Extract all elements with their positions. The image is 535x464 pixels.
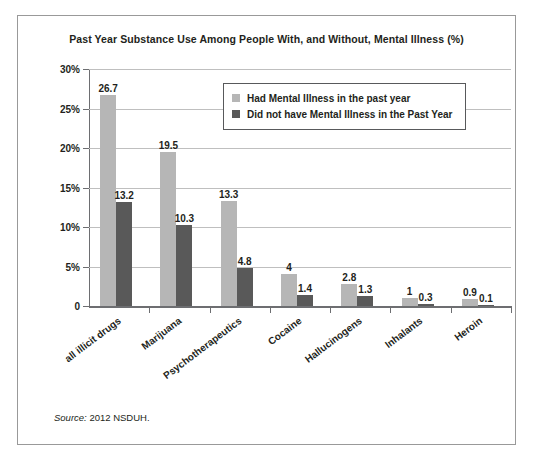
x-axis-line: [89, 306, 512, 308]
legend-item-label: Had Mental Illness in the past year: [247, 93, 410, 104]
legend-item: Did not have Mental Illness in the Past …: [232, 106, 455, 122]
y-tick-mark: [83, 227, 89, 228]
bar: 13.3: [221, 201, 237, 306]
y-tick-mark: [83, 267, 89, 268]
bar-value-label: 1.4: [298, 283, 312, 294]
x-tick-mark: [511, 306, 512, 313]
legend-item: Had Mental Illness in the past year: [232, 90, 455, 106]
x-axis-category-label: Hallucinogens: [303, 315, 364, 365]
bar-value-label: 13.2: [114, 190, 133, 201]
x-tick-mark: [210, 306, 211, 313]
bar: 13.2: [116, 202, 132, 306]
x-tick-mark: [390, 306, 391, 313]
figure-frame: Past Year Substance Use Among People Wit…: [17, 15, 516, 445]
x-axis-category-label: Marijuana: [139, 315, 183, 352]
bar-value-label: 19.5: [159, 140, 178, 151]
y-tick-mark: [83, 109, 89, 110]
bar-group: 19.510.3: [160, 69, 192, 306]
x-axis-category-label: all illicit drugs: [62, 315, 122, 364]
x-tick-mark: [270, 306, 271, 313]
y-tick-mark: [83, 69, 89, 70]
y-tick-label: 15%: [60, 182, 80, 193]
bar-value-label: 0.3: [419, 292, 433, 303]
bar-group: 0.90.1: [462, 69, 494, 306]
bar-value-label: 4: [286, 262, 292, 273]
bar: 0.1: [478, 305, 494, 306]
page-title: Past Year Substance Use Among People Wit…: [18, 33, 515, 45]
bar: 1.4: [297, 295, 313, 306]
bar: 0.3: [418, 304, 434, 306]
y-tick-label: 30%: [60, 64, 80, 75]
bar: 1.3: [357, 296, 373, 306]
legend-swatch-no-mental-illness: [232, 110, 240, 118]
bar: 4: [281, 274, 297, 306]
bar: 2.8: [341, 284, 357, 306]
source-label: Source:: [54, 412, 87, 423]
chart-legend: Had Mental Illness in the past year Did …: [223, 83, 466, 130]
y-tick-label: 0: [74, 301, 80, 312]
bar: 19.5: [160, 152, 176, 306]
bar: 1: [402, 298, 418, 306]
y-tick-label: 5%: [66, 261, 80, 272]
y-tick-mark: [83, 148, 89, 149]
bar-value-label: 1: [407, 286, 413, 297]
x-axis-category-label: Inhalants: [383, 315, 425, 350]
bar-value-label: 10.3: [175, 213, 194, 224]
y-tick-label: 20%: [60, 143, 80, 154]
source-value: 2012 NSDUH.: [89, 412, 149, 423]
legend-swatch-had-mental-illness: [232, 94, 240, 102]
bar-value-label: 4.8: [238, 256, 252, 267]
y-tick-label: 10%: [60, 222, 80, 233]
bar-value-label: 0.9: [463, 287, 477, 298]
x-axis-category-label: Cocaine: [266, 315, 304, 347]
bar-value-label: 0.1: [479, 293, 493, 304]
legend-item-label: Did not have Mental Illness in the Past …: [247, 109, 452, 120]
bar: 0.9: [462, 299, 478, 306]
bar-group: 26.713.2: [100, 69, 132, 306]
y-tick-label: 25%: [60, 103, 80, 114]
source-note: Source: 2012 NSDUH.: [54, 412, 150, 423]
bar-value-label: 26.7: [98, 83, 117, 94]
bar-value-label: 2.8: [342, 272, 356, 283]
x-tick-mark: [149, 306, 150, 313]
x-tick-mark: [330, 306, 331, 313]
bar-value-label: 13.3: [219, 189, 238, 200]
x-tick-mark: [451, 306, 452, 313]
x-axis-category-label: Heroin: [453, 315, 485, 343]
bar-value-label: 1.3: [358, 284, 372, 295]
bar: 4.8: [237, 268, 253, 306]
bar: 10.3: [176, 225, 192, 306]
y-tick-mark: [83, 188, 89, 189]
y-tick-mark: [83, 306, 89, 307]
